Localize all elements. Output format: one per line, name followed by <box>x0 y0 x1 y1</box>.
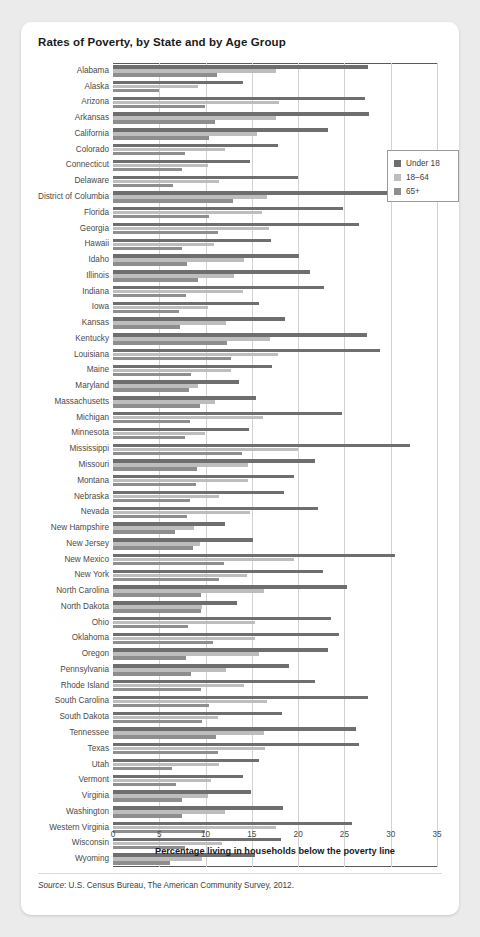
bar <box>113 286 324 289</box>
bar <box>113 116 276 119</box>
legend-item: 65+ <box>394 184 458 198</box>
bar <box>113 180 219 183</box>
state-label-mississippi: Mississippi <box>21 445 109 453</box>
state-label-connecticut: Connecticut <box>21 161 109 169</box>
bar <box>113 479 248 482</box>
bar <box>113 168 182 171</box>
chart-card: Rates of Poverty, by State and by Age Gr… <box>21 22 459 915</box>
bar <box>113 85 198 88</box>
bar <box>113 81 243 84</box>
bar-group <box>113 631 437 647</box>
bar <box>113 601 237 604</box>
bar <box>113 262 187 265</box>
bar-group <box>113 315 437 331</box>
bar <box>113 700 267 703</box>
state-label-michigan: Michigan <box>21 414 109 422</box>
bar <box>113 404 200 407</box>
state-label-virginia: Virginia <box>21 792 109 800</box>
bar <box>113 199 233 202</box>
state-label-illinois: Illinois <box>21 272 109 280</box>
bar-group <box>113 95 437 111</box>
bar <box>113 467 197 470</box>
bar <box>113 767 172 770</box>
bar <box>113 444 410 447</box>
bar-group <box>113 394 437 410</box>
bar <box>113 270 310 273</box>
state-label-arkansas: Arkansas <box>21 114 109 122</box>
bar-group <box>113 252 437 268</box>
state-label-georgia: Georgia <box>21 225 109 233</box>
state-label-massachusetts: Massachusetts <box>21 398 109 406</box>
bar <box>113 105 205 108</box>
bar <box>113 861 170 864</box>
state-label-arizona: Arizona <box>21 98 109 106</box>
bar <box>113 609 201 612</box>
legend-item: 18–64 <box>394 170 458 184</box>
state-label-oregon: Oregon <box>21 650 109 658</box>
bar <box>113 727 356 730</box>
state-label-new-hampshire: New Hampshire <box>21 524 109 532</box>
bar <box>113 448 298 451</box>
bar <box>113 672 191 675</box>
state-label-kentucky: Kentucky <box>21 335 109 343</box>
bar <box>113 73 217 76</box>
bar <box>113 152 185 155</box>
bar <box>113 388 189 391</box>
x-axis-title: Percentage living in households below th… <box>113 846 437 856</box>
bar <box>113 605 202 608</box>
bar <box>113 337 270 340</box>
x-tick-0: 0 <box>101 830 125 839</box>
bar-group <box>113 410 437 426</box>
bar-group <box>113 662 437 678</box>
bar <box>113 341 227 344</box>
bar-group <box>113 441 437 457</box>
state-label-western-virginia: Western Virginia <box>21 824 109 832</box>
bar <box>113 593 201 596</box>
bar <box>113 310 179 313</box>
bar <box>113 684 244 687</box>
bar <box>113 436 185 439</box>
bar <box>113 798 182 801</box>
state-label-missouri: Missouri <box>21 461 109 469</box>
bar <box>113 794 208 797</box>
bar <box>113 128 328 131</box>
bar <box>113 716 218 719</box>
bar <box>113 491 284 494</box>
bar <box>113 668 226 671</box>
bar <box>113 842 222 845</box>
bar <box>113 763 219 766</box>
bar <box>113 652 259 655</box>
bar-group <box>113 804 437 820</box>
state-label-texas: Texas <box>21 745 109 753</box>
bar-group <box>113 126 437 142</box>
bar <box>113 538 253 541</box>
bar <box>113 207 343 210</box>
state-label-kansas: Kansas <box>21 319 109 327</box>
bar-group <box>113 599 437 615</box>
bar <box>113 585 347 588</box>
bar <box>113 574 247 577</box>
bar-group <box>113 583 437 599</box>
legend-label: 18–64 <box>406 173 429 182</box>
bar-group <box>113 725 437 741</box>
bar <box>113 227 269 230</box>
bar-group <box>113 378 437 394</box>
bar <box>113 483 196 486</box>
bar <box>113 258 244 261</box>
bar-group <box>113 221 437 237</box>
state-label-alabama: Alabama <box>21 67 109 75</box>
state-label-pennsylvania: Pennsylvania <box>21 666 109 674</box>
state-label-tennessee: Tennessee <box>21 729 109 737</box>
bar <box>113 136 209 139</box>
bar <box>113 333 367 336</box>
bar-group <box>113 79 437 95</box>
bar-group <box>113 788 437 804</box>
state-label-delaware: Delaware <box>21 177 109 185</box>
bar <box>113 790 251 793</box>
legend-label: 65+ <box>406 187 420 196</box>
bar <box>113 522 225 525</box>
bar-group <box>113 520 437 536</box>
bar <box>113 704 209 707</box>
source-note: Source: U.S. Census Bureau, The American… <box>38 881 294 890</box>
bar <box>113 463 248 466</box>
